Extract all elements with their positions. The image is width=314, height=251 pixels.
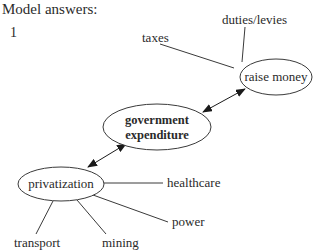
- node-government-expenditure: government expenditure: [103, 104, 211, 150]
- edge-privatization-mining: [77, 200, 106, 234]
- node-raise-money: raise money: [240, 59, 312, 95]
- leaf-mining: mining: [102, 235, 139, 250]
- node-raise-money-label: raise money: [244, 69, 308, 84]
- node-expenditure-line1: government: [125, 113, 190, 127]
- node-expenditure-line2: expenditure: [125, 128, 189, 142]
- leaf-healthcare: healthcare: [167, 175, 221, 190]
- arrow-privatization-expenditure: [88, 144, 126, 167]
- node-privatization-label: privatization: [28, 176, 94, 191]
- edge-privatization-transport: [36, 201, 53, 234]
- arrow-expenditure-raise-money: [203, 89, 245, 112]
- leaf-transport: transport: [14, 235, 61, 250]
- node-privatization: privatization: [18, 167, 104, 201]
- leaf-taxes: taxes: [142, 30, 169, 45]
- edge-privatization-power: [93, 195, 168, 222]
- edge-raise-money-taxes: [160, 44, 234, 68]
- mind-map-diagram: raise money government expenditure priva…: [0, 0, 314, 251]
- edge-raise-money-duties: [242, 27, 245, 62]
- leaf-duties-levies: duties/levies: [222, 12, 287, 27]
- leaf-power: power: [172, 214, 205, 229]
